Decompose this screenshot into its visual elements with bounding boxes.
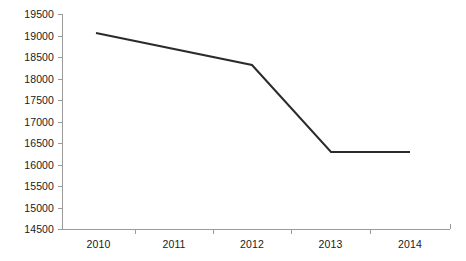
- y-axis-tick-label: 15500: [8, 180, 54, 192]
- y-axis-tick-label: 14500: [8, 223, 54, 235]
- data-series-line: [96, 33, 410, 152]
- y-axis-tick-label: 18500: [8, 51, 54, 63]
- series-line-path: [96, 33, 410, 152]
- y-axis-tick-label: 18000: [8, 73, 54, 85]
- x-axis-tick-label: 2012: [213, 238, 291, 250]
- y-axis-tick-label: 15000: [8, 202, 54, 214]
- x-axis-tick-label: 2011: [135, 238, 213, 250]
- y-axis-tick-label: 17000: [8, 116, 54, 128]
- y-axis-ticks: [58, 15, 62, 230]
- y-axis-tick-label: 19500: [8, 8, 54, 20]
- y-axis-tick-label: 16000: [8, 159, 54, 171]
- y-axis-tick-label: 16500: [8, 137, 54, 149]
- x-axis-tick-label: 2010: [62, 238, 135, 250]
- x-axis-tick-label: 2013: [291, 238, 370, 250]
- line-chart: 1950019000185001800017500170001650016000…: [0, 0, 466, 261]
- x-axis-tick-label: 2014: [370, 238, 450, 250]
- chart-plot-area: [0, 0, 466, 261]
- y-axis-tick-label: 17500: [8, 94, 54, 106]
- y-axis-tick-label: 19000: [8, 30, 54, 42]
- chart-axes: [62, 14, 450, 230]
